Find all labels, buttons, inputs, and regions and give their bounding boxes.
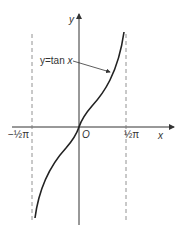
curve-label-var: x <box>68 55 73 66</box>
left-asymptote-label: −½π <box>8 129 29 140</box>
right-asymptote-label: ½π <box>124 129 139 140</box>
x-axis-label: x <box>158 130 163 141</box>
y-axis-label: y <box>69 14 74 25</box>
origin-label: O <box>82 129 90 140</box>
tan-graph <box>0 0 180 235</box>
curve-label-text: y=tan <box>40 55 68 66</box>
curve-label: y=tan x <box>40 55 73 66</box>
